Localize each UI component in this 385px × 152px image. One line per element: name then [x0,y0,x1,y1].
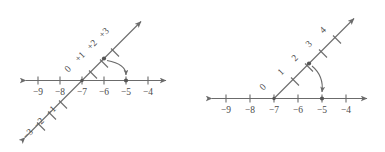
axis-tick-label: −9 [221,105,231,115]
axis-tick-label: −4 [143,87,153,97]
slant-tick-label: 1 [276,66,287,77]
left-slant-tick-labels: −3 −2 −1 0 +1 +2 +3 [21,26,111,141]
axis-tick-label: −7 [269,105,279,115]
point-origin [272,97,275,100]
left-panel: −9 −8 −7 −6 −5 −4 [0,0,192,152]
point-axis-minus5 [320,96,324,100]
slant-tick-label: 3 [304,38,315,49]
right-slant-tick-labels: 0 1 2 3 4 [258,24,329,92]
axis-tick-label: −7 [77,87,87,97]
axis-tick-label: −8 [55,87,65,97]
right-panel: −9 −8 −7 −6 −5 −4 [192,0,385,152]
point-origin [80,79,83,82]
axis-tick-label: −6 [99,87,109,97]
figure-root: −9 −8 −7 −6 −5 −4 [0,0,385,152]
left-panel-canvas: −9 −8 −7 −6 −5 −4 [0,0,192,152]
axis-tick-label: −5 [317,105,327,115]
slant-tick-label: 2 [290,52,301,63]
axis-tick-label: −8 [245,105,255,115]
point-slant-2 [307,61,311,65]
slant-zero-label: 0 [258,81,269,92]
right-arc-arrow [312,66,322,92]
slant-tick-label: 4 [318,24,329,35]
axis-tick-label: −5 [121,87,131,97]
right-panel-canvas: −9 −8 −7 −6 −5 −4 [192,0,385,152]
right-slant-ray [274,19,354,99]
axis-tick-label: −9 [33,87,43,97]
slant-tick-label: +1 [73,50,87,64]
point-axis-minus5 [124,78,128,82]
left-axis-tick-labels: −9 −8 −7 −6 −5 −4 [33,87,153,97]
left-arc-arrow [107,61,126,76]
slant-tick-label: +2 [85,38,99,52]
axis-tick-label: −4 [341,105,351,115]
slant-zero-label: 0 [63,63,74,74]
right-axis-tick-labels: −9 −8 −7 −6 −5 −4 [221,105,351,115]
axis-tick-label: −6 [293,105,303,115]
slant-tick-label: +3 [97,26,111,40]
point-slant-2 [102,56,106,60]
